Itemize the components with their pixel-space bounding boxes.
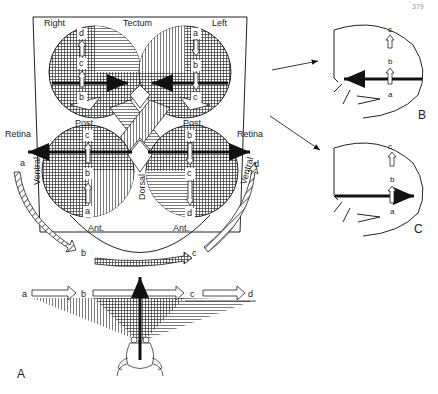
line-letter-b: b: [81, 289, 86, 299]
field-arrow-d: [203, 286, 245, 300]
svg-text:b: b: [193, 60, 198, 70]
arc-letter-b: b: [81, 248, 86, 258]
page-number: 379: [412, 3, 424, 10]
field-arrow-b-c: [95, 252, 192, 266]
panel-c-letter-a: a: [390, 207, 395, 216]
pointer-to-c: [270, 116, 320, 150]
line-letter-a: a: [22, 289, 27, 299]
arc-letter-a: a: [20, 158, 25, 168]
right-post-label: Post.: [183, 118, 204, 128]
svg-text:b: b: [187, 130, 192, 140]
panel-c-letter-c: c: [388, 142, 392, 151]
svg-text:c: c: [85, 130, 90, 140]
up-arrow-icon: [388, 152, 396, 166]
panel-b-head: [334, 25, 423, 118]
panel-b-letter-c: c: [388, 25, 392, 34]
left-ant-label: Ant.: [88, 223, 104, 233]
tectum-title: Tectum: [123, 18, 152, 28]
panel-label-b: B: [418, 108, 426, 122]
line-letter-d: d: [248, 289, 253, 299]
up-arrow-icon: [386, 35, 394, 48]
left-retina-label: Retina: [5, 129, 31, 139]
svg-text:a: a: [85, 206, 90, 216]
tectum-right-label: Right: [44, 18, 66, 28]
svg-text:c: c: [193, 92, 198, 102]
left-post-label: Post.: [75, 118, 96, 128]
svg-text:b: b: [79, 92, 84, 102]
svg-text:d: d: [79, 28, 84, 38]
left-ventral-label: Ventral: [32, 157, 42, 185]
right-ant-label: Ant.: [173, 223, 189, 233]
svg-text:c: c: [187, 168, 192, 178]
panel-label-a: A: [17, 367, 25, 381]
field-arc: [70, 215, 210, 253]
pointer-to-b: [272, 61, 318, 70]
arc-letter-c: c: [192, 248, 197, 258]
tectum-left-label: Left: [212, 18, 228, 28]
arc-letter-d: d: [254, 159, 259, 169]
panel-b-letter-b: b: [388, 57, 393, 66]
svg-text:a: a: [193, 28, 198, 38]
panel-b-letter-a: a: [388, 90, 393, 99]
line-letter-c: c: [190, 289, 195, 299]
field-arrow-a: [32, 286, 76, 300]
panel-c-head: [334, 143, 423, 236]
up-arrow-icon: [386, 68, 394, 84]
visual-field-wedge: [32, 298, 255, 340]
panel-label-c: C: [414, 222, 423, 236]
svg-text:d: d: [187, 208, 192, 218]
dorsal-label: Dorsal: [137, 174, 147, 200]
svg-text:c: c: [79, 58, 84, 68]
panel-c-letter-b: b: [390, 175, 395, 184]
right-retina-label: Retina: [237, 129, 263, 139]
svg-text:b: b: [85, 168, 90, 178]
figure-canvas: 379 Right Tectum Left d c b: [0, 0, 438, 394]
